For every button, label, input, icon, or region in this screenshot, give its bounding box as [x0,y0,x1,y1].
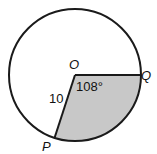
radius-label: 10 [49,92,63,105]
circle-diagram [0,0,157,154]
center-label: O [69,58,79,71]
point-p-label: P [42,140,51,153]
angle-label: 108° [76,80,103,93]
point-q-label: Q [141,69,151,82]
